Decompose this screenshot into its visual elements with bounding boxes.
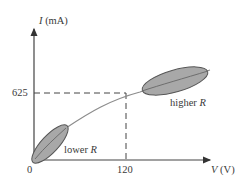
higher-r-symbol: R bbox=[199, 97, 205, 108]
x-axis-label: V (V) bbox=[211, 165, 235, 176]
y-axis-unit: (mA) bbox=[45, 15, 68, 26]
higher-r-label: higher R bbox=[170, 98, 206, 109]
lower-r-label: lower R bbox=[64, 145, 97, 156]
x-axis-symbol: V bbox=[211, 164, 217, 175]
tick-origin: 0 bbox=[27, 165, 32, 176]
iv-diagram: I (mA) V (V) 625 0 120 lower R higher R bbox=[0, 0, 245, 182]
lower-r-symbol: R bbox=[91, 144, 97, 155]
lower-r-prefix: lower bbox=[64, 144, 88, 155]
y-axis-symbol: I bbox=[39, 15, 43, 26]
y-axis-label: I (mA) bbox=[39, 16, 68, 27]
diagram-canvas bbox=[0, 0, 245, 182]
x-axis-unit: (V) bbox=[220, 164, 235, 175]
higher-r-prefix: higher bbox=[170, 97, 197, 108]
tick-120: 120 bbox=[117, 165, 133, 176]
tick-625: 625 bbox=[12, 88, 28, 99]
